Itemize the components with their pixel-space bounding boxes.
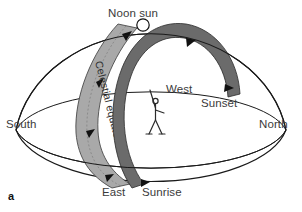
- label-west: West: [166, 84, 192, 96]
- label-noon-sun: Noon sun: [108, 8, 158, 20]
- label-sunrise: Sunrise: [142, 187, 182, 199]
- dome-front-arc: [16, 34, 286, 168]
- sky-dome-outline: [16, 34, 286, 182]
- label-north: North: [259, 119, 288, 131]
- label-east: East: [102, 187, 125, 199]
- figure-container: Celestial equator: [0, 0, 302, 212]
- panel-label: a: [8, 190, 14, 202]
- observer-stick-figure: [146, 90, 165, 134]
- label-sunset: Sunset: [201, 98, 237, 110]
- label-south: South: [6, 119, 37, 131]
- noon-sun-circle: [137, 19, 149, 31]
- celestial-sphere-svg: Celestial equator: [0, 0, 302, 212]
